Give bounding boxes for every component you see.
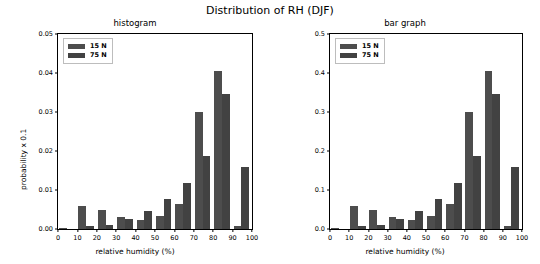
bar-bargraph-75n-45 [415,211,423,229]
xtick-bargraph-3: 30 [383,229,391,242]
legend-label-75n: 75 N [362,51,379,60]
subplot-title-histogram: histogram [0,18,270,28]
bar-histogram-15n-5 [59,228,67,229]
xtick-histogram-7: 70 [190,229,198,242]
bar-histogram-75n-75 [203,156,211,229]
xtick-bargraph-5: 50 [422,229,430,242]
bar-histogram-75n-35 [125,219,133,229]
axes-bargraph: 15 N 75 N 0.00.10.20.30.40.5010203040506… [329,33,523,230]
bar-bargraph-15n-65 [446,204,454,229]
bar-histogram-15n-25 [98,210,106,230]
bar-histogram-15n-85 [214,71,222,229]
legend-swatch-15n [68,44,85,49]
subplot-title-bargraph: bar graph [270,18,540,28]
ytick-histogram-5: 0.05 [39,30,58,38]
bar-histogram-15n-75 [195,112,203,229]
xtick-histogram-1: 10 [73,229,81,242]
legend-label-15n: 15 N [362,42,379,51]
ytick-bargraph-5: 0.5 [315,30,330,38]
xaxis-label-histogram: relative humidity (%) [0,247,270,256]
legend-swatch-75n [68,53,85,58]
bar-histogram-15n-45 [137,220,145,229]
bar-bargraph-15n-35 [389,217,397,229]
legend-label-75n: 75 N [90,51,107,60]
xtick-bargraph-7: 70 [460,229,468,242]
axes-histogram: 15 N 75 N 0.000.010.020.030.040.05010203… [57,33,253,230]
bar-bargraph-75n-75 [473,156,481,229]
bar-histogram-75n-65 [183,183,191,229]
bar-bargraph-75n-95 [511,167,519,229]
panel-histogram: histogram 15 N 75 N 0.000.010.020.030.04… [0,0,270,264]
xtick-histogram-0: 0 [56,229,60,242]
xtick-bargraph-6: 60 [441,229,449,242]
legend-bargraph: 15 N 75 N [335,38,385,64]
yaxis-label-histogram: probability x 0.1 [19,129,28,190]
bar-bargraph-15n-5 [331,228,339,229]
bar-histogram-75n-55 [164,199,172,229]
bar-histogram-15n-35 [117,217,125,229]
ytick-histogram-3: 0.03 [39,108,58,116]
xtick-bargraph-2: 20 [364,229,372,242]
ytick-bargraph-1: 0.1 [315,186,330,194]
legend-entry-75n: 75 N [340,51,379,60]
ytick-histogram-1: 0.01 [39,186,58,194]
bar-histogram-15n-55 [156,216,164,229]
figure-root: Distribution of RH (DJF) histogram 15 N … [0,0,540,264]
legend-swatch-75n [340,53,357,58]
xtick-bargraph-9: 90 [499,229,507,242]
bar-histogram-15n-15 [78,206,86,229]
bar-bargraph-15n-75 [465,112,473,229]
legend-label-15n: 15 N [90,42,107,51]
legend-entry-15n: 15 N [68,42,107,51]
bar-histogram-75n-45 [144,211,152,229]
xtick-histogram-3: 30 [112,229,120,242]
ytick-bargraph-2: 0.2 [315,147,330,155]
bar-bargraph-15n-45 [408,220,416,229]
ytick-histogram-2: 0.02 [39,147,58,155]
xtick-histogram-9: 90 [228,229,236,242]
xtick-bargraph-0: 0 [328,229,332,242]
legend-entry-75n: 75 N [68,51,107,60]
bar-histogram-75n-95 [241,167,249,229]
ytick-histogram-4: 0.04 [39,69,58,77]
xtick-bargraph-4: 40 [403,229,411,242]
bar-bargraph-15n-55 [427,216,435,229]
bar-bargraph-75n-55 [435,199,443,229]
bar-bargraph-75n-65 [454,183,462,229]
xtick-histogram-2: 20 [93,229,101,242]
bar-bargraph-75n-35 [396,219,404,229]
xtick-histogram-5: 50 [151,229,159,242]
bar-bargraph-15n-25 [369,210,377,230]
legend-entry-15n: 15 N [340,42,379,51]
xtick-bargraph-1: 10 [345,229,353,242]
legend-histogram: 15 N 75 N [63,38,113,64]
panel-bargraph: bar graph 15 N 75 N 0.00.10.20.30.40.501… [270,0,540,264]
xtick-histogram-8: 80 [209,229,217,242]
xtick-histogram-4: 40 [131,229,139,242]
xtick-histogram-6: 60 [170,229,178,242]
xaxis-label-bargraph: relative humidity (%) [270,247,540,256]
ytick-bargraph-3: 0.3 [315,108,330,116]
bar-histogram-75n-85 [222,94,230,229]
legend-swatch-15n [340,44,357,49]
xtick-bargraph-10: 100 [516,229,528,242]
xtick-bargraph-8: 80 [479,229,487,242]
ytick-bargraph-4: 0.4 [315,69,330,77]
bar-bargraph-75n-85 [492,94,500,229]
xtick-histogram-10: 100 [246,229,258,242]
bar-histogram-15n-65 [175,204,183,229]
bar-bargraph-15n-15 [350,206,358,229]
bar-bargraph-15n-85 [485,71,493,229]
